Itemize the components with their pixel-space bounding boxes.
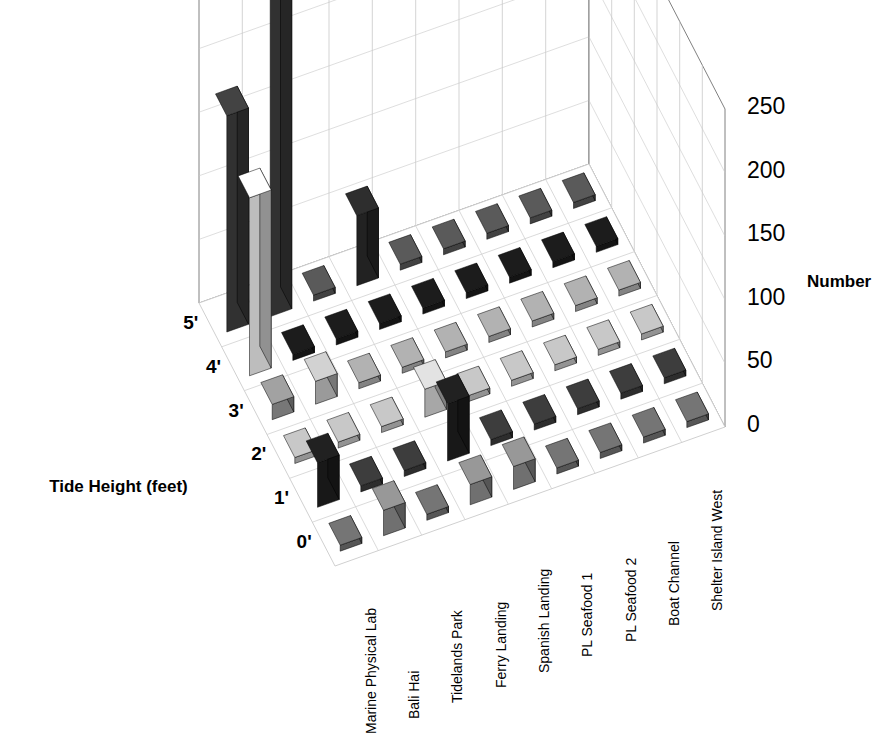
category-label-4: Spanish Landing bbox=[536, 568, 552, 672]
tide-tick-5ft: 5' bbox=[156, 312, 198, 334]
category-label-5: PL Seafood 1 bbox=[579, 573, 595, 657]
value-tick-200: 200 bbox=[747, 157, 785, 184]
tide-tick-4ft: 4' bbox=[179, 356, 221, 378]
chart-canvas: Rough Limpet 050100150200250Number5'4'3'… bbox=[0, 0, 890, 754]
value-axis-title: Number bbox=[807, 272, 871, 292]
value-tick-150: 150 bbox=[747, 220, 785, 247]
tide-tick-3ft: 3' bbox=[202, 400, 244, 422]
value-tick-50: 50 bbox=[747, 347, 773, 374]
tide-tick-2ft: 2' bbox=[224, 443, 266, 465]
tide-tick-0ft: 0' bbox=[270, 531, 312, 553]
category-label-3: Ferry Landing bbox=[493, 602, 509, 688]
category-label-2: Tidelands Park bbox=[449, 611, 465, 704]
category-label-8: Shelter Island West bbox=[709, 490, 725, 611]
category-label-7: Boat Channel bbox=[666, 541, 682, 626]
category-label-6: PL Seafood 2 bbox=[623, 557, 639, 641]
value-tick-250: 250 bbox=[747, 93, 785, 120]
category-label-1: Bali Hai bbox=[406, 671, 422, 719]
tide-axis-title: Tide Height (feet) bbox=[49, 477, 188, 497]
value-tick-100: 100 bbox=[747, 284, 785, 311]
tide-tick-1ft: 1' bbox=[247, 487, 289, 509]
category-label-0: Marine Physical Lab bbox=[363, 608, 379, 734]
value-tick-0: 0 bbox=[747, 411, 760, 438]
